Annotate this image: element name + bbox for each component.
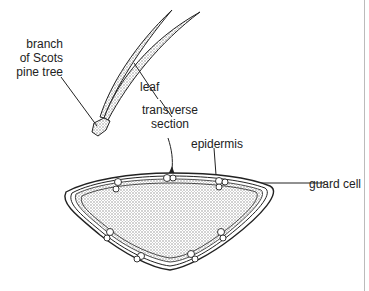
section-label-line2: section xyxy=(138,117,202,131)
leaf-label: leaf xyxy=(140,80,159,94)
branch-label-line3: pine tree xyxy=(10,65,63,79)
guard-cell-label: guard cell xyxy=(309,177,361,191)
branch-label: branch of Scots pine tree xyxy=(10,37,63,79)
section-label-line1: transverse xyxy=(138,103,202,117)
page-edge-divider xyxy=(364,0,365,291)
section-arrow-line xyxy=(168,138,172,170)
transverse-section xyxy=(65,173,274,270)
branch-label-line1: branch xyxy=(10,37,63,51)
branch-leader xyxy=(61,77,97,126)
section-label: transverse section xyxy=(138,103,202,131)
diagram-canvas: branch of Scots pine tree leaf transvers… xyxy=(0,0,369,291)
branch-label-line2: of Scots xyxy=(10,51,63,65)
branch-stub xyxy=(92,118,110,136)
epidermis-leader xyxy=(214,148,216,175)
epidermis-label: epidermis xyxy=(191,137,243,151)
